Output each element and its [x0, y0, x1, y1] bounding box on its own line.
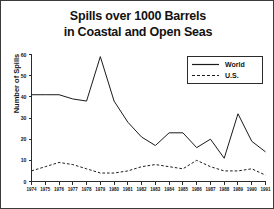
- y-tick-label: 40: [21, 94, 27, 100]
- x-tick-label: 1975: [40, 187, 51, 192]
- x-tick-label: 1978: [82, 187, 93, 192]
- series-line-us: [32, 160, 266, 175]
- y-tick-label: 0: [24, 179, 27, 185]
- legend-label-us: U.S.: [225, 72, 239, 79]
- x-tick-label: 1989: [233, 187, 244, 192]
- y-tick-label-group: 0102030405060: [21, 52, 27, 185]
- x-tick-label: 1991: [260, 187, 271, 192]
- x-tick-label: 1987: [205, 187, 216, 192]
- chart-figure: Spills over 1000 Barrels in Coastal and …: [0, 0, 274, 209]
- x-tick-label: 1976: [54, 187, 65, 192]
- x-tick-label: 1982: [137, 187, 148, 192]
- y-tick-label: 50: [21, 73, 27, 79]
- x-tick-label: 1986: [192, 187, 203, 192]
- x-tick-label: 1974: [26, 187, 37, 192]
- y-tick-label: 30: [21, 115, 27, 121]
- legend-swatch-world: [192, 61, 219, 68]
- x-tick-label: 1990: [247, 187, 258, 192]
- x-tick-label: 1979: [95, 187, 106, 192]
- x-tick-label: 1981: [123, 187, 134, 192]
- plot-area: 0102030405060 19741975197619771978197919…: [1, 1, 274, 209]
- legend-swatch-us: [192, 72, 219, 79]
- y-tick-label: 20: [21, 136, 27, 142]
- legend-item-world: World: [188, 59, 262, 70]
- x-tick-label: 1984: [164, 187, 175, 192]
- x-tick-label: 1980: [109, 187, 120, 192]
- y-tick-label: 60: [21, 52, 27, 58]
- y-tick-label: 10: [21, 157, 27, 163]
- x-tick-label: 1977: [68, 187, 79, 192]
- chart-legend: World U.S.: [187, 56, 263, 84]
- legend-label-world: World: [225, 61, 245, 68]
- x-tick-label: 1985: [178, 187, 189, 192]
- x-tick-label-group: 1974197519761977197819791980198119821983…: [26, 187, 271, 192]
- x-tick-label: 1988: [219, 187, 230, 192]
- legend-item-us: U.S.: [188, 70, 262, 81]
- x-tick-label: 1983: [150, 187, 161, 192]
